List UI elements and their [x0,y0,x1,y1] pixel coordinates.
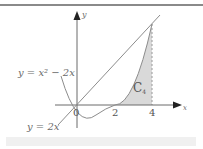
parabola-label: y = x² − 2x [17,67,75,78]
y-axis-label: y [81,10,87,19]
x-axis-arrow-icon [173,102,182,109]
line-label: y = 2x [26,121,60,132]
x-axis-label: x [183,104,187,112]
graph: y x 0 2 4 y = x² − 2x y = 2x C4 [0,0,203,149]
origin-label: 0 [73,107,79,118]
y-axis-arrow-icon [74,11,81,20]
tick-label-4: 4 [149,107,155,118]
bottom-band [6,137,196,146]
tick-label-2: 2 [112,107,118,118]
